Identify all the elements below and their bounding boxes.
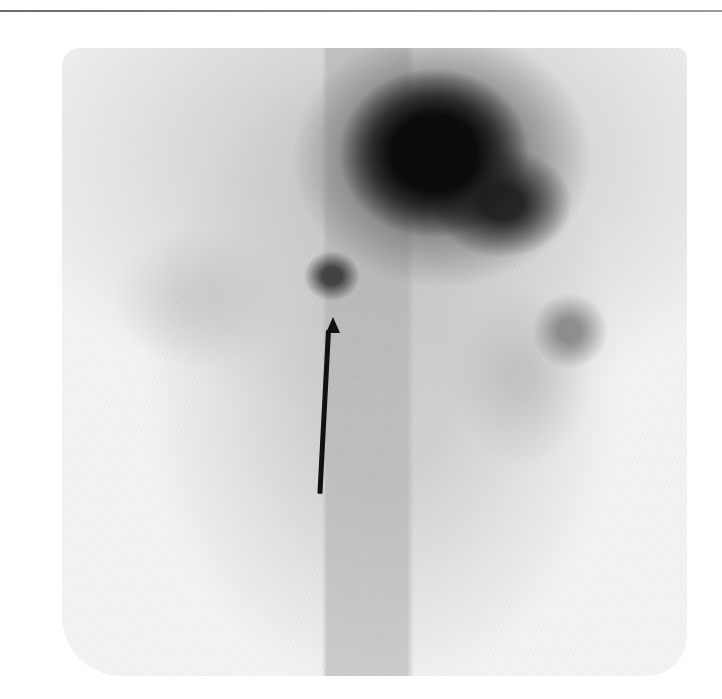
scintigraphy-image <box>62 48 687 676</box>
image-noise <box>62 48 687 676</box>
top-rule <box>0 10 722 12</box>
